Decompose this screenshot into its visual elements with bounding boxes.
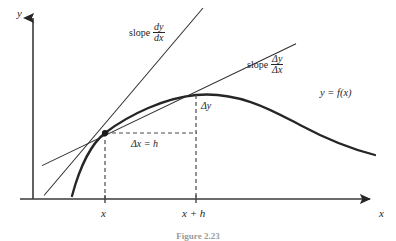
curve-equation-label: y = f(x) [320, 88, 352, 99]
x-axis-label: x [379, 208, 384, 219]
y-axis-label: y [17, 8, 22, 19]
slope-tangent-word: slope [129, 28, 150, 38]
figure-caption: Figure 2.23 [0, 231, 396, 241]
delta-x-label: Δx = h [131, 139, 158, 149]
slope-secant-denominator: Δx [271, 65, 283, 76]
function-curve [72, 95, 375, 196]
tangent-line [44, 8, 203, 196]
slope-tangent-label: slope dy dx [129, 22, 165, 44]
slope-secant-label: slope Δy Δx [247, 54, 283, 76]
tick-label-x-plus-h: x + h [182, 208, 205, 219]
slope-secant-fraction: Δy Δx [271, 54, 283, 76]
slope-tangent-denominator: dx [153, 33, 164, 44]
slope-tangent-fraction: dy dx [153, 22, 164, 44]
tick-label-x: x [101, 208, 106, 219]
delta-y-label: Δy [201, 101, 211, 111]
tangency-point-marker [102, 130, 108, 136]
slope-secant-word: slope [247, 60, 268, 70]
